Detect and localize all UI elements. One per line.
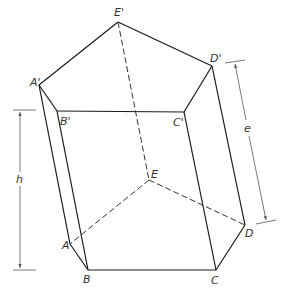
lateral-edges <box>39 66 245 270</box>
edge-EA <box>70 180 149 244</box>
label-D: D <box>245 227 253 240</box>
edge-ED <box>149 180 245 225</box>
prism-diagram: A' B' C' D' E' A B C D E h e <box>0 0 284 292</box>
dimension-h <box>13 110 36 270</box>
dimension-labels: h e <box>16 122 251 186</box>
label-B: B <box>83 273 91 286</box>
edge-C'C <box>184 112 216 270</box>
edge-E'E <box>118 22 149 180</box>
e-line-upper <box>235 64 246 120</box>
label-h: h <box>16 173 23 186</box>
label-D-top: D' <box>210 52 222 65</box>
label-E-top: E' <box>114 6 124 19</box>
top-face <box>39 22 212 112</box>
edge-A'E' <box>39 22 118 85</box>
edge-C'B' <box>57 111 184 112</box>
label-E: E <box>151 168 158 181</box>
label-e: e <box>244 122 251 135</box>
dimension-e <box>225 60 276 224</box>
edge-A'A <box>39 85 70 244</box>
label-A: A <box>61 239 70 252</box>
edge-CD <box>216 225 245 270</box>
e-line-lower <box>249 136 266 220</box>
edge-E'D' <box>118 22 212 66</box>
bottom-face-visible <box>70 225 245 270</box>
vertex-labels: A' B' C' D' E' A B C D E <box>29 6 253 287</box>
prism-drawing: A' B' C' D' E' A B C D E h e <box>0 0 284 292</box>
e-bottom-tick <box>256 220 276 224</box>
e-top-tick <box>225 60 245 63</box>
edge-D'C' <box>184 66 212 112</box>
label-C-top: C' <box>173 116 184 129</box>
label-A-top: A' <box>29 76 41 89</box>
label-C: C <box>211 274 219 287</box>
label-B-top: B' <box>60 115 71 128</box>
